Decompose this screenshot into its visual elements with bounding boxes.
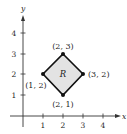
x-tick-label: 2 xyxy=(61,121,66,130)
x-axis-label: x xyxy=(122,112,127,121)
x-tick-label: 1 xyxy=(41,121,46,130)
x-tick-label: 3 xyxy=(81,121,86,130)
y-tick-label: 3 xyxy=(12,50,17,59)
vertex-label: (3, 2) xyxy=(88,70,110,79)
region-label: R xyxy=(59,69,67,79)
vertex-point xyxy=(61,93,65,97)
region-r: R (2, 3) (3, 2) (2, 1) (1, 2) xyxy=(25,42,109,109)
y-tick-label: 4 xyxy=(12,29,17,38)
vertex-point xyxy=(41,72,45,76)
plot-svg: 1 2 3 4 1 2 3 4 x y R (2, 3) (3, 2) (2, … xyxy=(0,0,127,134)
vertex-label: (1, 2) xyxy=(25,81,47,90)
x-axis-arrow-icon xyxy=(115,114,121,118)
vertex-label: (2, 1) xyxy=(52,100,74,109)
vertex-point xyxy=(61,52,65,56)
vertex-label: (2, 3) xyxy=(52,42,74,51)
x-tick-label: 4 xyxy=(101,121,106,130)
y-tick-label: 1 xyxy=(12,91,17,100)
y-axis-label: y xyxy=(20,4,26,13)
coordinate-figure: 1 2 3 4 1 2 3 4 x y R (2, 3) (3, 2) (2, … xyxy=(0,0,127,134)
y-tick-label: 2 xyxy=(12,70,17,79)
vertex-point xyxy=(81,72,85,76)
y-axis-arrow-icon xyxy=(21,15,25,21)
